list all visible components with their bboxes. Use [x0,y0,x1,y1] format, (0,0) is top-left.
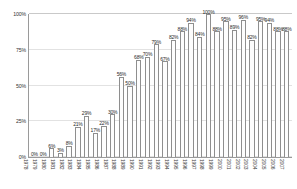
bar-value-label: 70% [143,51,152,57]
bar-slot: 88% [178,14,187,157]
y-axis-tick-label: 75% [16,47,26,53]
bar[interactable]: 67% [162,61,167,157]
x-axis-tick-label: 1987 [102,159,107,169]
bar-slot: 68% [134,14,143,157]
x-axis-tick-label: 1997 [190,159,195,169]
bar-value-label: 94% [186,17,195,23]
bar[interactable]: 94% [188,23,193,157]
bar[interactable]: 79% [154,44,159,157]
bar[interactable]: 95% [258,21,263,157]
bar-slot: 8% [65,14,74,157]
x-axis-tick-label: 1986 [94,159,99,169]
x-axis-tick-label: 1978 [23,159,28,169]
bar-value-label: 89% [230,24,239,30]
x-axis-tick-label: 1989 [120,159,125,169]
x-axis-tick-label: 1995 [173,159,178,169]
bar[interactable]: 82% [249,40,254,157]
x-axis-tick-label: 1981 [50,159,55,169]
bar[interactable]: 3% [58,153,63,157]
plot-area: 0%25%50%75%100%0%0%6%3%8%21%29%17%22%30%… [28,14,292,158]
x-axis-tick-label: 1990 [129,159,134,169]
bar-slot: 30% [108,14,117,157]
bar-slot: 17% [91,14,100,157]
bar[interactable]: 88% [180,31,185,157]
x-axis-tick-label: 1985 [85,159,90,169]
bar[interactable]: 21% [75,127,80,157]
bar-value-label: 17% [91,127,100,133]
bar-slot: 82% [248,14,257,157]
bar[interactable]: 17% [93,133,98,157]
bar-slot: 6% [47,14,56,157]
bar-slot: 88% [282,14,291,157]
bar-value-label: 96% [239,14,248,20]
bar[interactable]: 6% [49,148,54,157]
bar[interactable]: 96% [241,20,246,157]
bar[interactable]: 68% [136,60,141,157]
x-axis-tick-label: 1993 [155,159,160,169]
x-axis-tick-label: 2005 [261,159,266,169]
bar-slot: 21% [74,14,83,157]
bar-value-label: 21% [73,121,82,127]
x-axis-tick-label: 1980 [41,159,46,169]
bar-value-label: 82% [247,34,256,40]
x-axis-tick-label: 2003 [243,159,248,169]
x-axis-tick-label: 1998 [199,159,204,169]
bar-slot: 50% [126,14,135,157]
y-axis-tick-label: 25% [16,118,26,124]
bar[interactable]: 88% [214,31,219,157]
bar-slot: 0% [39,14,48,157]
x-axis-tick-label: 2000 [217,159,222,169]
x-axis-tick-label: 1992 [146,159,151,169]
bar[interactable]: 95% [223,21,228,157]
bar-value-label: 82% [169,34,178,40]
bar[interactable]: 8% [66,146,71,157]
x-axis-tick-label: 1979 [32,159,37,169]
bar-value-label: 95% [221,16,230,22]
x-axis-tick-label: 1988 [111,159,116,169]
bar-slot: 79% [152,14,161,157]
bar-slot: 22% [100,14,109,157]
bar[interactable]: 84% [197,37,202,157]
bar[interactable]: 89% [232,30,237,157]
y-axis-tick-label: 100% [13,11,26,17]
bar-slot: 95% [221,14,230,157]
x-axis-tick-label: 2004 [252,159,257,169]
x-axis-tick-label: 2006 [270,159,275,169]
bar-value-label: 79% [151,39,160,45]
bar[interactable]: 88% [284,31,289,157]
bar-value-label: 6% [48,143,55,149]
bar-value-label: 22% [99,120,108,126]
bars-container: 0%0%6%3%8%21%29%17%22%30%56%50%68%70%79%… [30,14,292,157]
bar[interactable]: 56% [119,77,124,157]
bar-slot: 95% [256,14,265,157]
bar-slot: 94% [265,14,274,157]
bar[interactable]: 50% [127,86,132,158]
bar-slot: 0% [30,14,39,157]
bar[interactable]: 29% [84,116,89,157]
bar-chart: 0%25%50%75%100%0%0%6%3%8%21%29%17%22%30%… [0,0,297,189]
bar-slot: 100% [204,14,213,157]
bar-value-label: 88% [178,26,187,32]
bar[interactable]: 30% [110,114,115,157]
x-axis-labels: 1978197919801981198219831984198519861987… [29,159,293,189]
x-axis-tick-label: 2001 [226,159,231,169]
x-axis-tick-label: 1982 [58,159,63,169]
bar-value-label: 50% [125,80,134,86]
bar-slot: 70% [143,14,152,157]
bar[interactable]: 82% [171,40,176,157]
bar-value-label: 84% [195,31,204,37]
bar[interactable]: 70% [145,57,150,157]
bar-value-label: 0% [40,151,47,157]
x-axis-tick-label: 1983 [67,159,72,169]
bar[interactable]: 94% [267,23,272,157]
bar-value-label: 56% [117,71,126,77]
x-axis-tick-label: 1994 [164,159,169,169]
bar[interactable]: 100% [206,14,211,157]
x-axis-tick-label: 1996 [182,159,187,169]
x-axis-tick: 2007 [284,159,293,189]
x-axis-tick-label: 2002 [234,159,239,169]
bar[interactable]: 88% [275,31,280,157]
bar[interactable]: 22% [101,126,106,157]
bar-value-label: 29% [82,110,91,116]
x-axis-tick-label: 2007 [278,159,283,169]
